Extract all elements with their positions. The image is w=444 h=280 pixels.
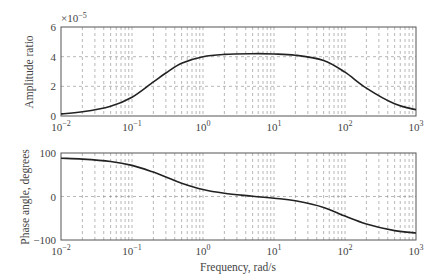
amplitude-multiplier: ×10−5 (61, 11, 87, 24)
phase-x-ticks: 10−210−1100101102103 (51, 243, 423, 257)
x-tick-label: 102 (338, 119, 353, 133)
x-tick-label: 10−1 (122, 243, 142, 257)
phase-grid (61, 153, 416, 240)
amplitude-grid (61, 27, 416, 116)
amplitude-y-ticks: 0246 (51, 21, 57, 122)
phase-y-label: Phase angle, degrees (19, 149, 32, 245)
amplitude-panel: 0246 10−210−1100101102103 ×10−5 Amplitud… (23, 11, 424, 133)
x-tick-label: 102 (338, 243, 353, 257)
bode-plot: 0246 10−210−1100101102103 ×10−5 Amplitud… (0, 0, 444, 280)
x-tick-label: 103 (409, 243, 424, 257)
x-tick-label: 10−2 (51, 119, 71, 133)
amplitude-curve (61, 54, 416, 114)
phase-y-ticks: −1000100 (33, 147, 56, 246)
frequency-x-label: Frequency, rad/s (200, 261, 276, 274)
x-tick-label: 103 (409, 119, 424, 133)
y-tick-label: 0 (51, 191, 57, 203)
x-tick-label: 101 (267, 119, 282, 133)
x-tick-label: 10−1 (122, 119, 142, 133)
y-tick-label: 2 (51, 80, 57, 92)
y-tick-label: 4 (51, 51, 57, 63)
x-tick-label: 10−2 (51, 243, 71, 257)
y-tick-label: 6 (51, 21, 57, 33)
x-tick-label: 101 (267, 243, 282, 257)
y-tick-label: 100 (40, 147, 57, 159)
phase-curve (61, 158, 416, 233)
amplitude-axes-frame (61, 27, 416, 116)
amplitude-x-ticks: 10−210−1100101102103 (51, 119, 423, 133)
x-tick-label: 100 (196, 119, 211, 133)
x-tick-label: 100 (196, 243, 211, 257)
phase-panel: −1000100 10−210−1100101102103 Phase angl… (19, 147, 424, 274)
amplitude-y-label: Amplitude ratio (23, 35, 36, 108)
